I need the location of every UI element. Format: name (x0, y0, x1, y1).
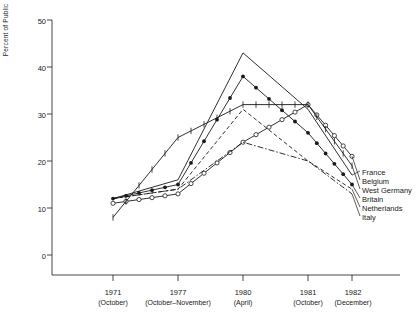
series-marker (333, 162, 337, 166)
legend-leader (352, 171, 360, 175)
series-marker (176, 192, 180, 196)
series-marker (189, 161, 193, 165)
series-marker (267, 97, 271, 101)
series-marker (215, 118, 219, 122)
series-marker (341, 172, 345, 176)
series-marker (254, 86, 258, 90)
series-marker (280, 118, 284, 122)
series-marker (189, 181, 193, 185)
legend-item-west-germany[interactable]: West Germany (362, 186, 412, 195)
legend-leader-lines (352, 156, 360, 216)
x-tick-year: 1971 (105, 288, 122, 297)
series-marker (254, 133, 258, 137)
series-marker (350, 154, 354, 158)
x-tick-label-1982: 1982 (December) (320, 288, 386, 308)
x-tick-sub: (December) (320, 298, 386, 308)
series-marker (332, 134, 336, 138)
series-netherlands (113, 109, 352, 198)
series-britain (111, 75, 354, 201)
x-tick-year: 1977 (170, 288, 187, 297)
series-marker (280, 108, 284, 112)
legend-item-belgium[interactable]: Belgium (362, 177, 389, 186)
legend-item-france[interactable]: France (362, 168, 385, 177)
chart-canvas (0, 0, 417, 324)
series-marker (150, 196, 154, 200)
series-marker (228, 96, 232, 100)
series-marker (293, 110, 297, 114)
series-marker (137, 197, 141, 201)
series-line (113, 76, 352, 198)
legend-item-italy[interactable]: Italy (362, 213, 376, 222)
x-tick-sub: (April) (213, 298, 273, 308)
x-tick-year: 1980 (235, 288, 252, 297)
series-marker (241, 75, 245, 79)
series-marker (315, 141, 319, 145)
x-tick-year: 1981 (300, 288, 317, 297)
series-marker (163, 194, 167, 198)
series-marker (306, 131, 310, 135)
legend-item-netherlands[interactable]: Netherlands (362, 204, 402, 213)
series-marker (293, 120, 297, 124)
series-line (113, 109, 352, 198)
series-marker (150, 188, 154, 192)
series-marker (163, 185, 167, 189)
series-marker (176, 183, 180, 187)
series-marker (215, 161, 219, 165)
series-layer (111, 53, 354, 221)
series-line (113, 53, 352, 199)
x-tick-year: 1982 (345, 288, 362, 297)
series-marker (267, 125, 271, 129)
series-marker (202, 139, 206, 143)
x-tick-label-1980: 1980 (April) (213, 288, 273, 308)
chart-figure: Percent of Public 50 40 30 20 10 0 (0, 0, 417, 324)
series-marker (111, 201, 115, 205)
series-france (113, 53, 352, 199)
series-marker (341, 144, 345, 148)
series-marker (324, 152, 328, 156)
legend-item-britain[interactable]: Britain (362, 195, 383, 204)
series-west-germany (113, 101, 352, 220)
